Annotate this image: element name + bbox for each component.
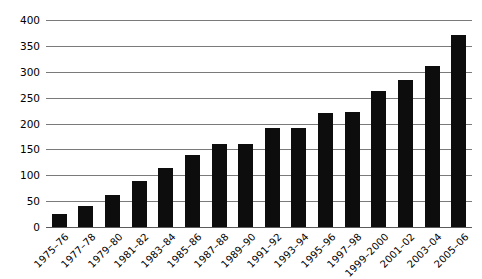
bar	[425, 66, 440, 227]
y-tick-label: 200	[0, 118, 40, 130]
bar	[291, 128, 306, 227]
bar	[318, 113, 333, 227]
bar	[371, 91, 386, 227]
y-tick-label: 100	[0, 169, 40, 181]
y-tick-label: 300	[0, 66, 40, 78]
bar	[105, 195, 120, 227]
y-tick-label: 0	[0, 221, 40, 233]
bar	[52, 214, 67, 227]
x-axis-labels: 1975–761977–781979–801981–821983–841985–…	[46, 231, 472, 279]
bar	[185, 155, 200, 227]
bar	[398, 80, 413, 227]
bar	[345, 112, 360, 227]
y-axis-labels: 050100150200250300350400	[0, 0, 40, 279]
bar-chart: 050100150200250300350400 1975–761977–781…	[0, 0, 482, 279]
bar	[451, 35, 466, 228]
bar	[132, 181, 147, 227]
bar	[265, 128, 280, 227]
y-tick-label: 150	[0, 143, 40, 155]
y-tick-label: 350	[0, 40, 40, 52]
y-tick-label: 400	[0, 14, 40, 26]
y-tick-label: 50	[0, 195, 40, 207]
bar	[158, 168, 173, 228]
bar-series	[46, 20, 472, 227]
y-tick-label: 250	[0, 92, 40, 104]
bar	[78, 206, 93, 227]
bar	[212, 144, 227, 227]
bar	[238, 144, 253, 227]
plot-area	[46, 20, 472, 227]
gridline-0	[46, 227, 472, 228]
